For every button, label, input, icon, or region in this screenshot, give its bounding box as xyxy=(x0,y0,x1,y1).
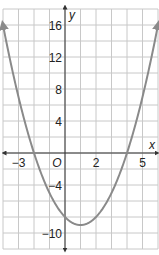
x-tick-label: −3 xyxy=(12,156,26,170)
parabola-chart: −325161284−4−10Oxy xyxy=(0,0,159,255)
x-axis-label: x xyxy=(148,138,156,152)
x-tick-label: 5 xyxy=(139,156,146,170)
y-tick-label: 12 xyxy=(49,51,63,65)
origin-label: O xyxy=(52,156,61,170)
x-tick-label: 2 xyxy=(93,156,100,170)
y-tick-label: 8 xyxy=(55,83,62,97)
y-tick-label: 16 xyxy=(49,19,63,33)
tick-labels: −325161284−4−10Oxy xyxy=(12,8,156,241)
y-axis-label: y xyxy=(68,8,76,22)
y-tick-label: −4 xyxy=(48,179,62,193)
y-tick-label: −10 xyxy=(42,227,63,241)
y-tick-label: 4 xyxy=(55,115,62,129)
